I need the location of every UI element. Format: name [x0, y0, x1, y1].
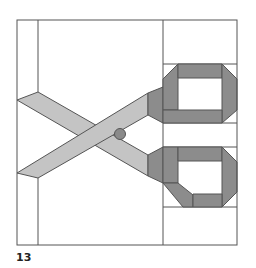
lower-handle-ring — [163, 147, 237, 207]
lower-ring-right — [222, 147, 237, 207]
lower-ring-bottom — [193, 194, 222, 207]
lower-ring-diagonal — [163, 183, 193, 207]
lower-ring-left — [163, 147, 178, 183]
pivot-screw-icon — [115, 129, 126, 140]
lower-shank — [148, 147, 163, 183]
lower-ring-top — [178, 147, 222, 161]
block-border — [17, 20, 237, 245]
figure-number: 13 — [16, 251, 32, 264]
upper-shank — [148, 87, 163, 123]
upper-ring-bottom — [163, 110, 222, 123]
upper-handle-ring — [163, 64, 237, 123]
upper-ring-top — [178, 64, 222, 78]
scissors-quilt-block — [0, 0, 256, 268]
upper-ring-left — [163, 64, 178, 110]
upper-ring-right — [222, 64, 237, 123]
